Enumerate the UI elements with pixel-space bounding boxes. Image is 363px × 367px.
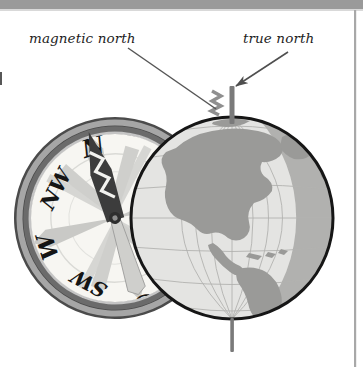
lightning-zigzag-icon [211,91,221,115]
magnetic-north-leader-line[interactable] [128,48,216,109]
left-edge-mark [0,72,2,85]
top-band [0,0,363,9]
label-magnetic-north: magnetic north [29,30,136,46]
true-north-arrow[interactable] [236,52,288,86]
rotation-axis-upper [230,86,235,124]
rotation-axis-lower [230,318,234,352]
label-true-north: true north [243,30,314,46]
globe [131,117,345,323]
top-band-shadow [0,9,363,11]
right-rule [354,10,356,367]
illustration-compass-and-globe: N NW W SW S [0,0,363,367]
figure-canvas: N NW W SW S [0,0,363,367]
